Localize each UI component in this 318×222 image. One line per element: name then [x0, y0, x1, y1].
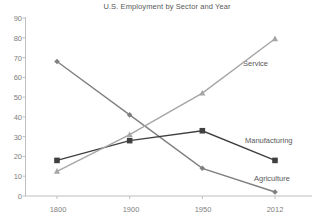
data-point-triangle	[272, 36, 278, 42]
series-layer	[54, 36, 278, 195]
data-point-square	[127, 138, 133, 144]
series-line	[57, 62, 275, 193]
plot-area	[0, 0, 318, 222]
data-point-triangle	[127, 131, 133, 137]
series-manufacturing	[54, 128, 278, 163]
series-agriculture	[54, 59, 278, 195]
series-service	[54, 36, 278, 174]
data-point-square	[54, 158, 60, 164]
chart-container: U.S. Employment by Sector and Year 90 80…	[0, 0, 318, 222]
data-point-square	[200, 128, 206, 134]
data-point-diamond	[272, 189, 278, 195]
data-point-square	[272, 158, 278, 164]
series-line	[57, 131, 275, 161]
